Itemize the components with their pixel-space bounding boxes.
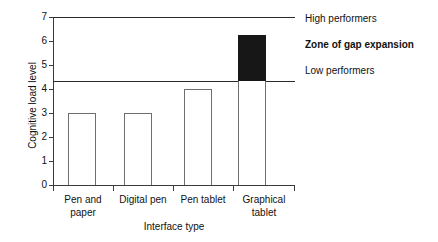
y-tick-6 bbox=[49, 41, 54, 42]
y-tick-label-5: 5 bbox=[36, 60, 47, 70]
x-tick-2 bbox=[173, 186, 174, 191]
x-category-label-line-1: Graphical bbox=[228, 193, 300, 206]
y-tick-label-0: 0 bbox=[36, 180, 47, 190]
y-tick-label-7: 7 bbox=[36, 12, 47, 22]
y-tick-1 bbox=[49, 161, 54, 162]
x-tick-1 bbox=[113, 186, 114, 191]
y-tick-4 bbox=[49, 89, 54, 90]
legend-high-performers: High performers bbox=[305, 13, 377, 25]
y-tick-label-4: 4 bbox=[36, 84, 47, 94]
y-tick-label-1: 1 bbox=[36, 156, 47, 166]
legend-low-performers: Low performers bbox=[305, 65, 374, 77]
x-tick-3 bbox=[233, 186, 234, 191]
y-tick-label-2: 2 bbox=[36, 132, 47, 142]
bar-pen-tablet bbox=[184, 89, 212, 185]
x-tick-0 bbox=[53, 186, 54, 191]
x-category-label-graphical-tablet: Graphical tablet bbox=[228, 193, 300, 219]
x-axis-label: Interface type bbox=[53, 221, 295, 233]
legend-zone-of-gap-expansion: Zone of gap expansion bbox=[305, 39, 414, 51]
y-tick-label-3: 3 bbox=[36, 108, 47, 118]
x-category-label-line-2: tablet bbox=[228, 206, 300, 219]
x-axis-line bbox=[53, 185, 295, 186]
y-tick-5 bbox=[49, 65, 54, 66]
y-tick-3 bbox=[49, 113, 54, 114]
x-category-label-line-2: paper bbox=[48, 206, 118, 219]
x-tick-4 bbox=[294, 186, 295, 191]
chart-figure: Cognitive load level 7 6 5 4 3 2 1 0 Pen… bbox=[0, 0, 438, 242]
bar-graphical-tablet-dark-segment bbox=[238, 35, 266, 81]
reference-line-high-performers bbox=[53, 17, 295, 18]
y-tick-2 bbox=[49, 137, 54, 138]
bar-pen-and-paper bbox=[68, 113, 96, 185]
y-tick-label-6: 6 bbox=[36, 36, 47, 46]
bar-digital-pen bbox=[124, 113, 152, 185]
